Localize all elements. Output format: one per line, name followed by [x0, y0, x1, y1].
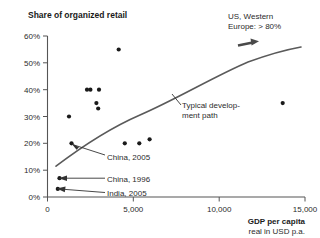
china-1996-label: China, 1996: [107, 175, 151, 184]
x-tick-label-15000: 15,000: [293, 205, 318, 214]
chart-title: Share of organized retail: [28, 10, 127, 20]
y-tick-label-50: 50%: [24, 59, 40, 68]
data-point: [67, 114, 71, 118]
y-tick-label-30: 30%: [24, 113, 40, 122]
y-tick-label-40: 40%: [24, 86, 40, 95]
arrow-right-icon: [238, 38, 259, 45]
development-path-curve: [56, 47, 301, 166]
data-point: [88, 88, 92, 92]
data-point: [117, 47, 121, 51]
chart-page: Share of organized retail 60% 50% 40% 30…: [0, 0, 320, 238]
x-tick-label-5000: 5,000: [123, 205, 144, 214]
data-point: [94, 101, 98, 105]
data-point: [281, 101, 285, 105]
china-1996-callout: China, 1996: [59, 175, 151, 184]
x-axis-subtitle: real in USD p.a.: [249, 227, 305, 236]
x-tick-label-10000: 10,000: [207, 205, 232, 214]
curve-callout: Typical develop- ment path: [172, 94, 240, 120]
us-europe-note-line2: Europe: > 80%: [228, 22, 281, 31]
india-2005-label: India, 2005: [107, 189, 147, 198]
top-right-annotation: US, Western Europe: > 80%: [228, 12, 281, 46]
y-tick-label-0: 0%: [28, 193, 40, 202]
india-2005-callout: India, 2005: [57, 187, 147, 198]
y-tick-label-10: 10%: [24, 166, 40, 175]
china-2005-label: China, 2005: [107, 153, 151, 162]
data-point: [137, 141, 141, 145]
y-tick-label-60: 60%: [24, 32, 40, 41]
x-axis-ticks: [48, 197, 306, 202]
x-tick-label-0: 0: [45, 205, 50, 214]
data-point: [148, 137, 152, 141]
data-points: [56, 47, 285, 191]
y-tick-label-20: 20%: [24, 139, 40, 148]
data-point: [123, 141, 127, 145]
scatter-chart: Share of organized retail 60% 50% 40% 30…: [0, 0, 320, 238]
y-axis-ticks: [43, 36, 48, 197]
curve-callout-line2: ment path: [182, 111, 218, 120]
data-point: [97, 88, 101, 92]
curve-callout-line1: Typical develop-: [182, 101, 240, 110]
china-2005-callout: China, 2005: [71, 143, 151, 162]
us-europe-note-line1: US, Western: [228, 12, 273, 21]
data-point: [96, 106, 100, 110]
x-axis-title: GDP per capita: [248, 217, 306, 226]
